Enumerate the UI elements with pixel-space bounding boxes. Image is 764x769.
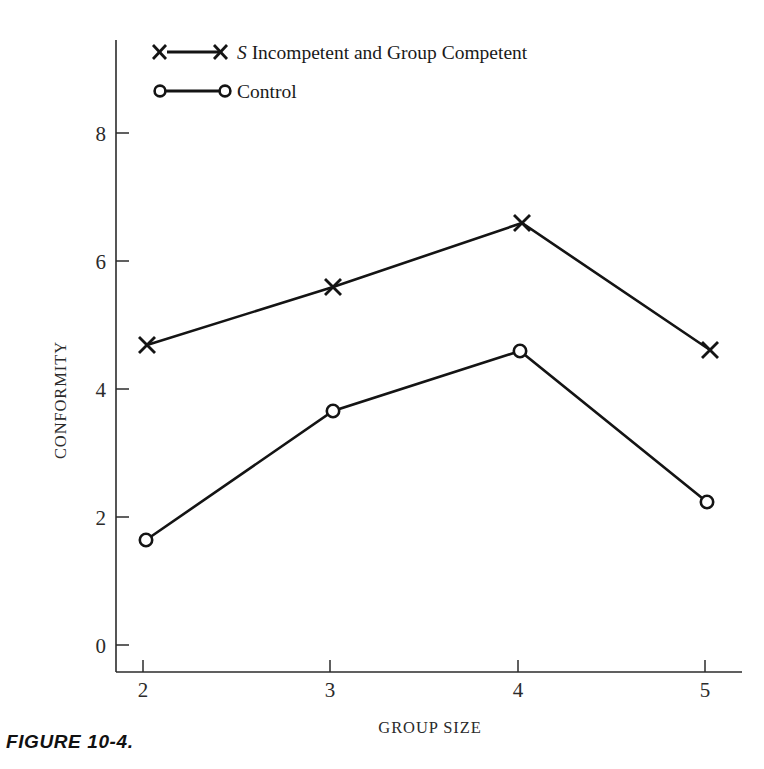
legend-item-incompetent: S Incompetent and Group Competent xyxy=(153,42,528,63)
y-axis-title: CONFORMITY xyxy=(51,341,70,459)
x-tick-label-5: 5 xyxy=(700,678,711,702)
figure-caption: FIGURE 10-4. xyxy=(6,731,134,753)
circle-marker xyxy=(140,534,152,546)
series-line-incompetent xyxy=(147,223,710,350)
circle-marker xyxy=(155,86,166,97)
x-axis-title: GROUP SIZE xyxy=(378,718,481,737)
x-tick-label-4: 4 xyxy=(513,678,524,702)
y-tick-label-0: 0 xyxy=(96,634,107,658)
x-marker xyxy=(702,342,718,358)
x-marker xyxy=(153,45,166,59)
y-tick-label-2: 2 xyxy=(96,506,107,530)
y-tick-label-4: 4 xyxy=(96,378,107,402)
figure-container: S Incompetent and Group Competent Contro… xyxy=(0,0,764,769)
series-control xyxy=(140,345,713,546)
series-incompetent-group-competent xyxy=(139,215,718,358)
circle-marker xyxy=(327,405,339,417)
circle-marker xyxy=(220,86,231,97)
legend-label-control: Control xyxy=(237,81,297,102)
legend-label-rest: Incompetent and Group Competent xyxy=(247,42,528,63)
series-line-control xyxy=(146,351,707,540)
x-marker xyxy=(325,279,341,295)
chart-legend: S Incompetent and Group Competent Contro… xyxy=(153,42,528,102)
x-tick-label-2: 2 xyxy=(138,678,149,702)
x-tick-label-3: 3 xyxy=(325,678,336,702)
legend-label-incompetent: S Incompetent and Group Competent xyxy=(237,42,528,63)
legend-item-control: Control xyxy=(155,81,298,102)
x-marker xyxy=(139,337,155,353)
circle-marker xyxy=(514,345,526,357)
y-tick-label-8: 8 xyxy=(96,122,107,146)
legend-label-italic-s: S xyxy=(237,42,247,63)
circle-marker xyxy=(701,496,713,508)
x-marker xyxy=(514,215,530,231)
conformity-line-chart: S Incompetent and Group Competent Contro… xyxy=(0,0,764,769)
y-tick-label-6: 6 xyxy=(96,250,107,274)
chart-axes: 8 6 4 2 0 2 3 4 5 CONFORMITY GROUP SIZE xyxy=(51,40,742,737)
